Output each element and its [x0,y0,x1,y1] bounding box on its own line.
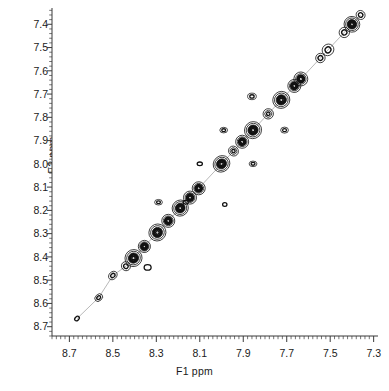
nmr-2d-contour-figure: F2 ppm 7.47.57.67.77.87.98.08.18.28.38.4… [0,0,389,391]
x-axis-tick-labels: 8.78.58.38.17.97.77.57.3 [0,348,389,362]
cross-peak [281,127,289,133]
plot-area [52,8,378,336]
x-tick-label: 8.1 [183,348,217,359]
cross-peak [220,127,228,133]
y-tick-label: 8.6 [22,298,48,309]
x-axis-title: F1 ppm [0,365,389,377]
x-tick-label: 7.9 [226,348,260,359]
y-tick-label: 8.3 [22,228,48,239]
y-tick-label: 8.1 [22,182,48,193]
y-tick-label: 8.5 [22,275,48,286]
y-tick-label: 7.7 [22,89,48,100]
x-tick-label: 7.3 [357,348,389,359]
x-tick-label: 8.3 [139,348,173,359]
y-axis-tick-labels: 7.47.57.67.77.87.98.08.18.28.38.48.58.68… [16,0,48,391]
cross-peak [223,203,227,207]
cross-peak [197,162,202,166]
y-tick-label: 7.6 [22,66,48,77]
y-tick-label: 8.2 [22,205,48,216]
y-tick-label: 7.9 [22,135,48,146]
y-tick-label: 8.7 [22,321,48,332]
x-tick-label: 8.7 [52,348,86,359]
x-tick-label: 7.7 [270,348,304,359]
x-tick-label: 7.5 [313,348,347,359]
y-tick-label: 7.5 [22,42,48,53]
y-tick-label: 8.4 [22,252,48,263]
contour-layer [52,8,378,336]
cross-peak [248,93,257,100]
y-tick-label: 7.8 [22,112,48,123]
cross-peak [144,265,151,271]
cross-peak [155,199,163,205]
y-tick-label: 7.4 [22,19,48,30]
y-tick-label: 8.0 [22,159,48,170]
cross-peak [249,161,257,167]
x-tick-label: 8.5 [96,348,130,359]
